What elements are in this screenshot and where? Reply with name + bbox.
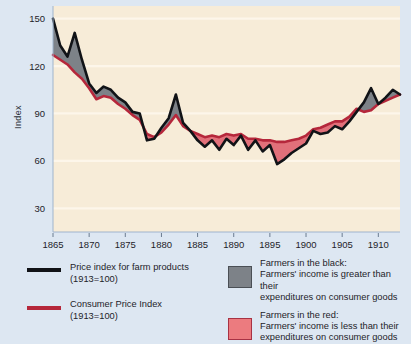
x-tick-label: 1900 [295,239,316,250]
legend-in-the-red-text: Farmers in the red: Farmers' income is l… [260,310,399,344]
legend-in-the-black-text: Farmers in the black: Farmers' income is… [260,258,411,304]
legend-item-farm-price-text: Price index for farm products (1913=100) [70,262,189,285]
legend-consumer-price-line1: Consumer Price Index [70,299,162,311]
legend-item-in-the-black: Farmers in the black: Farmers' income is… [228,258,411,304]
legend-item-farm-price: Price index for farm products (1913=100) [27,262,227,285]
x-tick-label: 1870 [79,239,100,250]
x-tick-label: 1880 [151,239,172,250]
legend-consumer-price-line2: (1913=100) [70,311,162,323]
legend-item-consumer-price: Consumer Price Index (1913=100) [27,299,227,322]
x-tick-label: 1890 [223,239,244,250]
black-line-icon [27,268,61,272]
legend-in-the-red-line2: expenditures on consumer goods [260,332,399,343]
y-tick-label: 90 [34,108,45,119]
x-tick-label: 1910 [368,239,389,250]
legend-series-column: Price index for farm products (1913=100)… [27,262,227,331]
red-line-icon [27,306,61,310]
legend-farm-price-line1: Price index for farm products [70,262,189,274]
legend-in-the-black-title: Farmers in the black: [260,258,411,269]
red-swatch-icon [228,318,252,340]
y-tick-label: 30 [34,203,45,214]
y-tick-label: 150 [29,13,45,24]
legend-item-consumer-price-text: Consumer Price Index (1913=100) [70,299,162,322]
x-tick-label: 1875 [115,239,136,250]
legend-in-the-black-line2: expenditures on consumer goods [260,292,411,303]
x-tick-label: 1905 [332,239,353,250]
chart-figure: 1501209060301865187018751880188518901895… [0,0,411,344]
y-tick-label: 120 [29,61,45,72]
y-tick-label: 60 [34,155,45,166]
x-tick-label: 1885 [187,239,208,250]
y-axis-label: Index [13,87,23,147]
legend-in-the-black-line1: Farmers' income is greater than their [260,269,411,292]
gray-swatch-icon [228,266,252,288]
legend-item-in-the-red: Farmers in the red: Farmers' income is l… [228,310,411,344]
x-tick-label: 1895 [259,239,280,250]
x-tick-label: 1865 [42,239,63,250]
legend-in-the-red-title: Farmers in the red: [260,310,399,321]
legend-shading-column: Farmers in the black: Farmers' income is… [228,258,411,344]
legend-in-the-red-line1: Farmers' income is less than their [260,321,399,332]
legend-farm-price-line2: (1913=100) [70,274,189,286]
chart-legend: Price index for farm products (1913=100)… [0,258,411,344]
